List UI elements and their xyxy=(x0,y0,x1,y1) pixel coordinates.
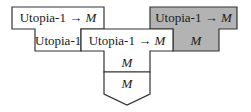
center-compiler-top-label: Utopia-1 → M xyxy=(81,34,173,47)
target-language: M xyxy=(85,10,96,25)
target-language: M xyxy=(221,10,232,25)
arrow-icon: → xyxy=(205,10,218,25)
center-compiler-stem-label: M xyxy=(104,56,150,69)
implementation-language: Utopia-1 xyxy=(35,33,81,48)
source-language: Utopia-1 xyxy=(20,10,66,25)
target-language: M xyxy=(154,33,165,48)
implementation-language: M xyxy=(191,33,202,48)
machine-name: M xyxy=(122,76,133,91)
source-language: Utopia-1 xyxy=(89,33,135,48)
right-compiler-stem-label: M xyxy=(173,34,219,47)
arrow-icon: → xyxy=(138,33,151,48)
implementation-language: M xyxy=(122,55,133,70)
machine-label: M xyxy=(104,77,150,90)
left-compiler-top-label: Utopia-1 → M xyxy=(12,11,104,24)
source-language: Utopia-1 xyxy=(155,10,201,25)
arrow-icon: → xyxy=(69,10,82,25)
right-compiler-top-label: Utopia-1 → M xyxy=(150,11,237,24)
left-compiler-bottom-label: Utopia-1 xyxy=(35,34,81,47)
